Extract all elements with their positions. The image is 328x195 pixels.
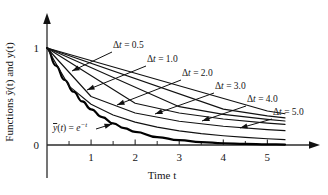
x-axis-arrowhead [309, 141, 320, 148]
y-axis-title: Functions ȳ(t) and y(t) [3, 42, 16, 142]
exact-solution-arrowhead-icon [104, 124, 112, 129]
annotation-3-arrowhead-icon [155, 109, 163, 114]
x-tick-label: 4 [221, 151, 227, 163]
exact-solution-equation: y(t) = e−t [52, 121, 88, 134]
y-axis-tick-labels: 01 [34, 42, 40, 151]
y-tick-label: 0 [34, 139, 40, 151]
x-tick-label: 2 [132, 151, 138, 163]
x-tick-label: 5 [265, 151, 271, 163]
annotation-label-dt-1: Δt = 1.0 [147, 54, 178, 64]
annotation-1-arrowhead-icon [87, 85, 95, 90]
annotation-5-arrowhead-icon [240, 123, 248, 128]
annotation-2-arrowhead-icon [117, 100, 125, 105]
annotation-label-dt-5: Δt = 5.0 [273, 107, 304, 117]
annotation-labels-layer: Δt = 0.5Δt = 1.0Δt = 2.0Δt = 3.0Δt = 4.0… [113, 40, 304, 117]
y-tick-label: 1 [34, 42, 40, 54]
annotation-label-dt-2: Δt = 2.0 [182, 68, 213, 78]
y-axis-arrowhead [43, 13, 51, 24]
annotation-label-dt-4: Δt = 4.0 [247, 94, 278, 104]
chart-canvas: 12345 01 Δt = 0.5Δt = 1.0Δt = 2.0Δt = 3.… [0, 0, 328, 195]
x-axis-title: Time t [148, 169, 177, 181]
x-tick-label: 1 [88, 151, 94, 163]
figure-root: 12345 01 Δt = 0.5Δt = 1.0Δt = 2.0Δt = 3.… [0, 0, 328, 195]
x-tick-label: 3 [176, 151, 182, 163]
annotation-label-dt-3: Δt = 3.0 [215, 81, 246, 91]
exact-solution-annotation: y(t) = e−t [52, 121, 88, 134]
annotation-label-dt-0: Δt = 0.5 [113, 40, 144, 50]
x-axis-tick-labels: 12345 [88, 151, 270, 163]
